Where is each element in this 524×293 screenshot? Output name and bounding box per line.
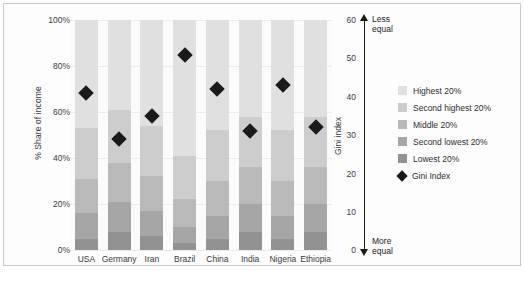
plot-area: USAGermanyIranBrazilChinaIndiaNigeriaEth… xyxy=(70,20,332,250)
legend-item-4[interactable]: Lowest 20% xyxy=(398,150,514,167)
bar-segment[interactable] xyxy=(206,239,229,251)
stacked-bar[interactable] xyxy=(75,20,98,250)
bar-segment[interactable] xyxy=(173,156,196,200)
legend-swatch-icon xyxy=(398,120,407,129)
bar-segment[interactable] xyxy=(206,20,229,130)
gridline xyxy=(70,250,332,251)
bar-segment[interactable] xyxy=(173,243,196,250)
category-label-iran: Iran xyxy=(145,254,160,264)
legend-item-2[interactable]: Middle 20% xyxy=(398,116,514,133)
bar-segment[interactable] xyxy=(271,181,294,216)
bar-segment[interactable] xyxy=(75,213,98,238)
bar-segment[interactable] xyxy=(206,130,229,181)
less-equal-annotation: Less equal xyxy=(372,14,393,34)
legend-swatch-icon xyxy=(398,137,407,146)
bar-segment[interactable] xyxy=(206,181,229,216)
stacked-bar[interactable] xyxy=(271,20,294,250)
right-axis-tick-0: 0 xyxy=(336,245,356,255)
category-label-usa: USA xyxy=(78,254,95,264)
bar-segment[interactable] xyxy=(271,216,294,239)
arrow-down-icon xyxy=(360,249,368,256)
left-axis-tickmark xyxy=(64,250,69,251)
category-label-nigeria: Nigeria xyxy=(269,254,296,264)
bar-segment[interactable] xyxy=(271,239,294,251)
bar-segment[interactable] xyxy=(304,20,327,117)
arrow-up-icon xyxy=(360,14,368,21)
legend-item-0[interactable]: Highest 20% xyxy=(398,82,514,99)
left-value-axis: % Share of income 100% 80% 60% 40% 20% 0… xyxy=(24,0,70,293)
right-axis-tick-10: 10 xyxy=(336,207,356,217)
legend-item-label: Highest 20% xyxy=(413,86,461,96)
bar-segment[interactable] xyxy=(206,216,229,239)
less-equal-line1: Less xyxy=(372,14,393,24)
legend-item-1[interactable]: Second highest 20% xyxy=(398,99,514,116)
left-axis-tickmark xyxy=(64,20,69,21)
bar-segment[interactable] xyxy=(173,199,196,227)
legend-item-label: Middle 20% xyxy=(413,120,457,130)
category-label-brazil: Brazil xyxy=(174,254,195,264)
legend-swatch-icon xyxy=(398,154,407,163)
bar-segment[interactable] xyxy=(239,20,262,117)
bar-segment[interactable] xyxy=(108,20,131,110)
more-equal-line1: More xyxy=(372,236,393,246)
bar-segment[interactable] xyxy=(239,232,262,250)
bar-segment[interactable] xyxy=(140,211,163,236)
left-axis-tickmark xyxy=(64,204,69,205)
bar-segment[interactable] xyxy=(75,20,98,128)
bar-segment[interactable] xyxy=(239,204,262,232)
bar-segment[interactable] xyxy=(108,202,131,232)
stacked-bar[interactable] xyxy=(140,20,163,250)
bar-segment[interactable] xyxy=(304,204,327,232)
equality-arrow-axis xyxy=(364,20,365,250)
category-label-germany: Germany xyxy=(102,254,137,264)
legend-swatch-icon xyxy=(398,103,407,112)
left-axis-title: % Share of income xyxy=(33,23,43,223)
bar-segment[interactable] xyxy=(173,20,196,156)
left-axis-tickmark xyxy=(64,112,69,113)
bar-segment[interactable] xyxy=(304,167,327,204)
legend-item-label: Lowest 20% xyxy=(413,154,459,164)
bar-segment[interactable] xyxy=(271,130,294,181)
more-equal-line2: equal xyxy=(372,246,393,256)
category-label-ethiopia: Ethiopia xyxy=(300,254,331,264)
left-axis-tickmark xyxy=(64,66,69,67)
stacked-bar[interactable] xyxy=(206,20,229,250)
bar-segment[interactable] xyxy=(75,179,98,214)
bar-segment[interactable] xyxy=(239,167,262,204)
right-axis-tick-60: 60 xyxy=(336,15,356,25)
bar-segment[interactable] xyxy=(108,232,131,250)
more-equal-annotation: More equal xyxy=(372,236,393,256)
legend-diamond-icon xyxy=(396,170,407,181)
legend-item-label: Gini Index xyxy=(412,171,450,181)
right-axis-tick-50: 50 xyxy=(336,53,356,63)
legend-item-3[interactable]: Second lowest 20% xyxy=(398,133,514,150)
bar-segment[interactable] xyxy=(140,176,163,211)
legend-swatch-icon xyxy=(398,86,407,95)
bar-segment[interactable] xyxy=(173,227,196,243)
chart-legend: Highest 20%Second highest 20%Middle 20%S… xyxy=(398,82,514,184)
bar-segment[interactable] xyxy=(304,232,327,250)
category-label-india: India xyxy=(241,254,259,264)
bar-segment[interactable] xyxy=(140,126,163,177)
left-axis-tickmark xyxy=(64,158,69,159)
legend-item-label: Second highest 20% xyxy=(413,103,491,113)
less-equal-line2: equal xyxy=(372,24,393,34)
bar-segment[interactable] xyxy=(108,163,131,202)
right-axis-title: Gini index xyxy=(333,76,343,196)
bar-segment[interactable] xyxy=(271,20,294,130)
legend-item-5[interactable]: Gini Index xyxy=(398,167,514,184)
bar-segment[interactable] xyxy=(140,236,163,250)
legend-item-label: Second lowest 20% xyxy=(413,137,488,147)
bar-segment[interactable] xyxy=(75,239,98,251)
category-label-china: China xyxy=(206,254,228,264)
chart-figure: % Share of income 100% 80% 60% 40% 20% 0… xyxy=(0,0,524,293)
bar-segment[interactable] xyxy=(75,128,98,179)
